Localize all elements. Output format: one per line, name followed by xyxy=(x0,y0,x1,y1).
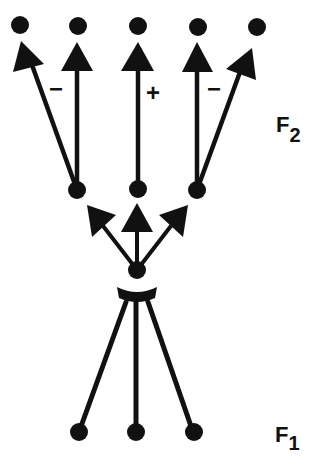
f2-node xyxy=(11,16,29,34)
f2-node xyxy=(129,17,147,35)
f2-node xyxy=(189,18,207,36)
f1-node xyxy=(185,423,203,441)
label-f1: F1 xyxy=(275,422,300,454)
f1-node xyxy=(127,423,145,441)
sign-right: − xyxy=(207,75,221,102)
arrowhead-icon xyxy=(13,41,44,72)
f1-node xyxy=(70,423,88,441)
f2-node xyxy=(69,17,87,35)
convergence-cup-icon xyxy=(117,287,157,302)
hub-arrowheads xyxy=(87,203,188,237)
f1-connections xyxy=(79,302,193,432)
label-f2: F2 xyxy=(276,112,301,146)
arrowhead-icon xyxy=(87,205,116,237)
arrowhead-icon xyxy=(121,203,153,232)
arrowhead-icon xyxy=(61,42,93,71)
f2-nodes xyxy=(11,16,266,36)
arrowhead-icon xyxy=(159,205,188,237)
f2-node xyxy=(248,18,266,36)
arrowhead-icon xyxy=(121,42,154,71)
sign-center: + xyxy=(146,79,160,106)
arrowhead-icon xyxy=(182,42,213,72)
network-diagram: − + − F2 F1 xyxy=(0,0,310,456)
sign-left: − xyxy=(49,75,63,102)
f1-nodes xyxy=(70,423,203,441)
